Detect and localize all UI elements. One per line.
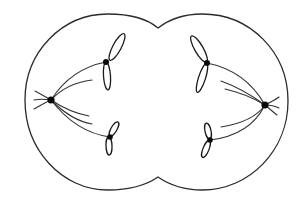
chromosome-left-upper <box>103 32 128 90</box>
right-spindle-pole <box>261 101 268 108</box>
centromere <box>207 137 213 143</box>
cell-membrane <box>25 14 288 190</box>
cell-division-diagram <box>0 0 302 199</box>
centromere <box>103 59 109 65</box>
centromere <box>204 60 210 66</box>
left-spindle-fibers <box>34 62 110 137</box>
chromosome-left-lower <box>106 121 121 156</box>
left-spindle-pole <box>47 96 54 103</box>
chromosome-right-lower <box>200 123 213 159</box>
diagram-canvas <box>0 0 302 199</box>
right-spindle-fibers <box>207 63 279 140</box>
centromere <box>107 134 113 140</box>
chromosome-right-upper <box>188 34 210 93</box>
